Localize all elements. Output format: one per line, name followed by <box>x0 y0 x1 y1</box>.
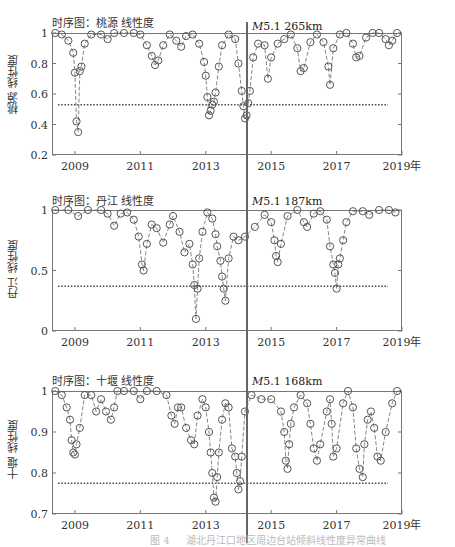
svg-text:2015: 2015 <box>257 519 285 532</box>
svg-text:0.8: 0.8 <box>31 58 49 71</box>
svg-text:2013: 2013 <box>192 160 220 173</box>
chart-panel-danjiang: 时序图：丹江 线性度 丹江 线性度 M5.1 187km 00.51200920… <box>0 180 455 360</box>
svg-text:0.7: 0.7 <box>31 508 49 521</box>
svg-text:0.6: 0.6 <box>31 88 49 101</box>
svg-text:2015: 2015 <box>257 336 285 349</box>
figure-caption: 图 4 湖北丹江口地区周边台站倾斜线性度异常曲线 <box>150 532 386 547</box>
svg-text:0.4: 0.4 <box>31 119 49 132</box>
svg-text:0.9: 0.9 <box>31 426 49 439</box>
scatter-plot: 00.51200920112013201520172019年 <box>0 180 455 360</box>
earthquake-time-line <box>246 22 248 543</box>
svg-text:2017: 2017 <box>323 336 351 349</box>
chart-panel-taoyuan: 时序图：桃源 线性度 桃源 线性度 M5.1 265km 0.20.40.60.… <box>0 0 455 180</box>
svg-text:2017: 2017 <box>323 519 351 532</box>
svg-text:2009: 2009 <box>61 519 89 532</box>
svg-text:2011: 2011 <box>126 160 154 173</box>
svg-text:0.5: 0.5 <box>31 265 49 278</box>
svg-text:2009: 2009 <box>61 160 89 173</box>
svg-text:1: 1 <box>41 204 48 217</box>
svg-text:2019年: 2019年 <box>383 335 422 349</box>
svg-text:0.2: 0.2 <box>31 149 49 162</box>
svg-text:2013: 2013 <box>192 336 220 349</box>
scatter-plot: 0.70.80.91200920112013201520172019年 <box>0 360 455 543</box>
svg-text:2011: 2011 <box>126 519 154 532</box>
svg-text:1: 1 <box>41 27 48 40</box>
svg-text:2009: 2009 <box>61 336 89 349</box>
svg-text:2011: 2011 <box>126 336 154 349</box>
svg-text:2017: 2017 <box>323 160 351 173</box>
scatter-plot: 0.20.40.60.81200920112013201520172019年 <box>0 0 455 180</box>
chart-panel-shiyan: 时序图：十堰 线性度 十堰 线性度 M5.1 168km 0.70.80.912… <box>0 360 455 543</box>
svg-text:1: 1 <box>41 385 48 398</box>
svg-text:2019年: 2019年 <box>383 518 422 532</box>
svg-text:0: 0 <box>41 325 48 338</box>
svg-text:2019年: 2019年 <box>383 159 422 173</box>
svg-text:2015: 2015 <box>257 160 285 173</box>
svg-text:0.8: 0.8 <box>31 467 49 480</box>
svg-text:2013: 2013 <box>192 519 220 532</box>
